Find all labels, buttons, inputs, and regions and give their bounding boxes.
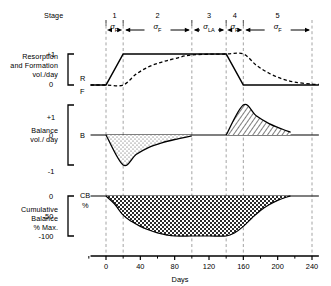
stage-duration-symbol-2: σF	[138, 22, 178, 33]
stage-duration-symbol-4: σR	[215, 22, 255, 33]
panel1-ytick-top: +1	[40, 50, 62, 59]
panel1-ytick-zero: 0	[40, 80, 62, 89]
sigma-subscript: R	[115, 27, 119, 33]
series-mark-B: B	[80, 131, 85, 140]
panel2-ytick-bottom: -1	[40, 167, 62, 176]
panel3-ytick-mid: -50	[34, 212, 62, 221]
figure-root: Stage 12345 σRσFσLAσRσF Resorption and F…	[0, 0, 331, 286]
sigma-subscript: LA	[208, 27, 215, 33]
stage-number-1: 1	[95, 11, 135, 20]
series-mark-F: F	[80, 87, 85, 96]
stage-number-4: 4	[215, 11, 255, 20]
panel3-ytick-zero: 0	[40, 192, 62, 201]
series-mark-CB: CB	[80, 191, 90, 200]
x-tick-240: 240	[292, 262, 331, 271]
panel2-ytick-zero: 0	[40, 131, 62, 140]
sigma-subscript: R	[235, 27, 239, 33]
panel3-ytick-bottom: -100	[30, 232, 62, 241]
stage-number-5: 5	[258, 11, 298, 20]
sigma-subscript: F	[278, 27, 281, 33]
stage-number-2: 2	[138, 11, 178, 20]
x-axis-title: Days	[160, 275, 200, 284]
sigma-subscript: F	[158, 27, 161, 33]
stage-duration-symbol-1: σR	[95, 22, 135, 33]
series-mark-percent: %	[82, 201, 89, 210]
panel2-ytick-top: +1	[40, 113, 62, 122]
stage-duration-symbol-5: σF	[258, 22, 298, 33]
series-mark-R: R	[80, 74, 85, 83]
stage-header-label: Stage	[44, 11, 86, 20]
